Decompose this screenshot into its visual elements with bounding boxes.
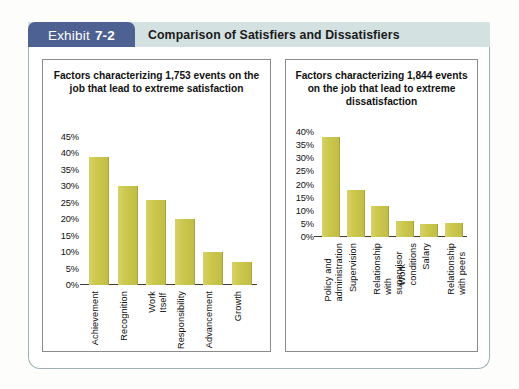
y-tick-label: 15% (61, 231, 79, 241)
bar (445, 223, 463, 237)
exhibit-number: 7-2 (95, 28, 115, 43)
y-tick-label: 15% (296, 193, 314, 203)
y-axis-right: 40%35%30%25%20%15%10%5%0% (287, 132, 314, 237)
y-tick-label: 0% (66, 280, 79, 290)
exhibit-label: Exhibit (48, 28, 90, 43)
y-tick-label: 30% (61, 181, 79, 191)
bars-right (319, 132, 467, 237)
y-tick-label: 10% (296, 206, 314, 216)
bar (347, 190, 365, 237)
y-axis-left: 45%40%35%30%25%20%15%10%5%0% (49, 137, 79, 285)
chart-panel-dissatisfiers: Factors characterizing 1,844 events on t… (285, 59, 478, 352)
exhibit-body: Factors characterizing 1,753 events on t… (28, 47, 490, 369)
bar (118, 186, 138, 285)
plot-area-left: 45%40%35%30%25%20%15%10%5%0% (85, 137, 257, 285)
bar (371, 206, 389, 238)
exhibit-header: Exhibit 7-2 Comparison of Satisfiers and… (28, 22, 490, 48)
bar (232, 262, 252, 285)
bar (420, 224, 438, 237)
y-tick-label: 20% (61, 214, 79, 224)
y-tick-label: 30% (296, 153, 314, 163)
y-tick-label: 25% (296, 166, 314, 176)
bars-left (85, 137, 257, 285)
chart-panel-satisfiers: Factors characterizing 1,753 events on t… (42, 59, 271, 352)
x-tick-label: Achievement (90, 291, 101, 345)
y-tick-label: 10% (61, 247, 79, 257)
bar (175, 219, 195, 285)
y-tick-label: 40% (296, 127, 314, 137)
bar (396, 221, 414, 237)
y-tick-label: 45% (61, 132, 79, 142)
x-tick-label: Work Itself (147, 291, 169, 313)
y-tick-label: 35% (296, 140, 314, 150)
y-tick-label: 40% (61, 148, 79, 158)
x-tick-label: Relationship with peers (446, 243, 468, 295)
plot-area-right: 40%35%30%25%20%15%10%5%0% (319, 132, 467, 237)
x-tick-label: Recognition (119, 291, 130, 341)
exhibit-title: Comparison of Satisfiers and Dissatisfie… (148, 22, 400, 48)
x-tick-label: Responsibility (176, 291, 187, 349)
bar (146, 200, 166, 286)
y-tick-label: 25% (61, 198, 79, 208)
y-tick-label: 20% (296, 180, 314, 190)
x-tick-label: Supervision (348, 243, 359, 292)
y-tick-label: 0% (301, 232, 314, 242)
x-tick-label: Work conditions (397, 243, 419, 285)
x-tick-label: Growth (233, 291, 244, 321)
exhibit-page: Exhibit 7-2 Comparison of Satisfiers and… (0, 0, 519, 389)
bar (322, 137, 340, 237)
chart-title-right: Factors characterizing 1,844 events on t… (294, 69, 469, 108)
x-tick-label: Policy and administration (323, 243, 345, 302)
y-tick-label: 35% (61, 165, 79, 175)
exhibit-tab: Exhibit 7-2 (28, 22, 135, 48)
x-tick-label: Advancement (204, 291, 215, 348)
bar (89, 157, 109, 285)
y-tick-label: 5% (301, 219, 314, 229)
chart-title-left: Factors characterizing 1,753 events on t… (51, 69, 262, 95)
y-tick-label: 5% (66, 264, 79, 274)
x-tick-label: Salary (421, 243, 432, 270)
bar (203, 252, 223, 285)
